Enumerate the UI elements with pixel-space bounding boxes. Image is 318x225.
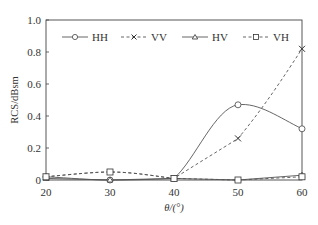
x-tick-label: 50 [233, 186, 245, 198]
x-tick-label: 20 [41, 186, 53, 198]
y-axis-label: RCS/dBsm [9, 76, 20, 123]
legend-item-hh: HH [62, 31, 108, 43]
legend: HH VV HV VH [62, 31, 289, 43]
series-hh [43, 102, 305, 183]
circle-marker-icon [299, 126, 305, 132]
y-axis: 0 0.2 0.4 0.6 0.8 1.0 RCS/dBsm [9, 14, 49, 186]
square-marker-icon [43, 174, 49, 180]
legend-label: HV [212, 31, 228, 43]
x-tick-label: 60 [297, 186, 309, 198]
x-tick-label: 30 [105, 186, 117, 198]
legend-item-hv: HV [182, 31, 228, 43]
rcs-line-chart: 0 0.2 0.4 0.6 0.8 1.0 RCS/dBsm 20 30 40 … [0, 0, 318, 225]
series-vh [43, 169, 305, 183]
circle-marker-icon [235, 102, 241, 108]
series-vv [43, 46, 305, 182]
legend-label: VH [273, 31, 289, 43]
legend-label: HH [92, 31, 108, 43]
y-tick-label: 0.4 [27, 110, 41, 122]
legend-item-vv: VV [121, 31, 167, 43]
y-tick-label: 0 [36, 174, 42, 186]
legend-label: VV [151, 31, 167, 43]
circle-marker-icon [72, 34, 77, 39]
plot-frame [46, 20, 302, 180]
x-axis-label: θ/(°) [164, 202, 184, 214]
y-tick-label: 0.2 [27, 142, 41, 154]
y-tick-label: 0.6 [27, 78, 41, 90]
square-marker-icon [107, 169, 113, 175]
y-tick-label: 1.0 [27, 14, 41, 26]
x-axis: 20 30 40 50 60 θ/(°) [41, 177, 309, 214]
x-tick-label: 40 [169, 186, 181, 198]
square-marker-icon [254, 35, 259, 40]
legend-item-vh: VH [243, 31, 289, 43]
y-tick-label: 0.8 [27, 46, 41, 58]
square-marker-icon [235, 177, 241, 183]
square-marker-icon [171, 175, 177, 181]
square-marker-icon [299, 174, 305, 180]
x-marker-icon [235, 135, 241, 141]
